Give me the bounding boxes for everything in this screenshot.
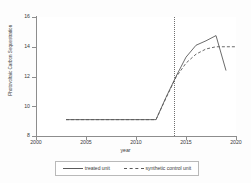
y-tick-label: 16: [0, 14, 30, 19]
legend-item-synthetic-control-unit: synthetic control unit: [124, 166, 192, 171]
x-tick-label: 2000: [21, 140, 51, 145]
legend-label: synthetic control unit: [146, 166, 192, 171]
legend-item-treated-unit: treated unit: [63, 166, 110, 171]
x-axis-line: [35, 136, 237, 137]
legend-label: treated unit: [85, 166, 110, 171]
y-tick-label: 8: [0, 133, 30, 138]
x-axis-title: year: [0, 148, 251, 153]
y-tick-label: 14: [0, 44, 30, 49]
y-tick-label: 10: [0, 104, 30, 109]
x-tick-label: 2010: [121, 140, 151, 145]
x-tick-label: 2015: [171, 140, 201, 145]
line-synthetic-control-unit: [66, 47, 236, 120]
chart-figure: 810121416 20002005201020152020 year Phot…: [0, 0, 251, 183]
dashed-line-swatch-icon: [124, 167, 144, 171]
y-tick-label: 12: [0, 74, 30, 79]
x-tick-label: 2005: [71, 140, 101, 145]
y-axis-title: Photovoltaic Carbon Sequestration: [9, 5, 14, 115]
series-plot: [36, 17, 236, 136]
chart-legend: treated unit synthetic control unit: [55, 161, 199, 176]
x-tick-label: 2020: [221, 140, 251, 145]
line-treated-unit: [66, 36, 226, 120]
solid-line-swatch-icon: [63, 167, 83, 171]
